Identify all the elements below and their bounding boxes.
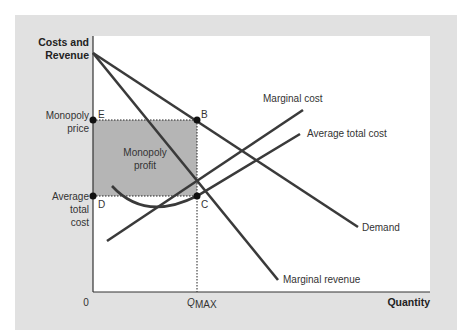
qmax-label: Q [187,297,195,308]
point-b [194,117,201,124]
x-axis-label: Quantity [387,296,430,308]
profit-label-2: profit [134,160,156,171]
monopoly-price-label: Monopoly [46,110,89,121]
point-e-label: E [98,109,105,120]
atc-tick-label-3: cost [71,217,90,228]
point-c [194,193,201,200]
atc-tick-label: Average [52,191,90,202]
monopoly-profit-area [93,120,197,196]
average-total-cost-label: Average total cost [307,128,387,139]
point-b-label: B [201,109,208,120]
point-c-label: C [201,199,208,210]
marginal-revenue-label: Marginal revenue [283,274,361,285]
monopoly-profit-chart: Costs and Revenue Quantity 0 Q MAX Monop… [0,0,457,335]
qmax-subscript: MAX [195,299,217,310]
point-d-label: D [98,199,105,210]
monopoly-price-label-2: price [67,123,89,134]
origin-label: 0 [83,297,89,308]
demand-label: Demand [362,222,400,233]
point-e [90,117,97,124]
y-axis-label: Costs and [38,36,89,48]
point-d [90,193,97,200]
profit-label: Monopoly [123,147,166,158]
y-axis-label-2: Revenue [45,49,89,61]
marginal-cost-label: Marginal cost [263,93,323,104]
atc-tick-label-2: total [70,204,89,215]
